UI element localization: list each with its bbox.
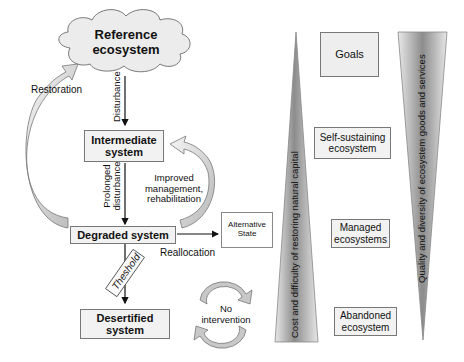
disturbance-label: Disturbance [111, 71, 122, 122]
alternative-state-box: Alternative State [221, 212, 273, 248]
degraded-system-box: Degraded system [70, 226, 176, 244]
restoration-label: Restoration [31, 84, 82, 95]
quality-diversity-label: Quality and diversity of ecosystem goods… [416, 54, 427, 283]
intermediate-system-box: Intermediate system [84, 130, 164, 162]
prolonged-disturbance-label: Prolonged disturbance [102, 156, 123, 216]
cost-difficulty-label: Cost and difficulty of restoring natural… [289, 151, 300, 338]
no-intervention-label: No intervention [196, 304, 256, 325]
improved-management-label: Improved management, rehabilitation [140, 173, 208, 205]
desertified-system-box: Desertified system [80, 309, 170, 339]
goal-abandoned-box: Abandoned ecosystem [334, 307, 397, 336]
reference-ecosystem-label: Reference ecosystem [82, 28, 170, 57]
goal-self-sustaining-box: Self-sustaining ecosystem [314, 127, 391, 159]
goals-header-box: Goals [320, 32, 379, 77]
goal-managed-box: Managed ecosystems [331, 219, 390, 248]
reallocation-label: Reallocation [160, 247, 215, 258]
